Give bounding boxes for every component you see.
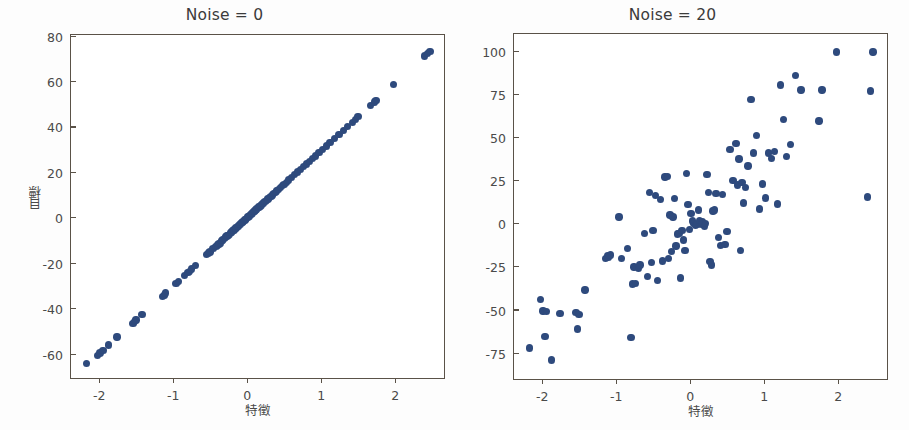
scatter-point: [797, 86, 804, 93]
scatter-point: [740, 199, 747, 206]
scatter-point: [815, 117, 822, 124]
tick-mark: [71, 81, 76, 82]
tick-mark: [514, 180, 519, 181]
scatter-point: [175, 278, 182, 285]
tick-mark: [514, 137, 519, 138]
tick-mark: [514, 266, 519, 267]
scatter-point: [678, 227, 685, 234]
y-tick-label: 20: [47, 165, 71, 180]
scatter-point: [683, 170, 690, 177]
scatter-point: [624, 245, 631, 252]
scatter-point: [677, 274, 684, 281]
y-tick-label: 100: [482, 44, 514, 59]
scatter-point: [818, 86, 825, 93]
scatter-point: [105, 341, 112, 348]
scatter-point: [138, 311, 145, 318]
tick-mark: [514, 51, 519, 52]
scatter-point: [759, 180, 766, 187]
scatter-point: [721, 241, 728, 248]
tick-mark: [514, 223, 519, 224]
scatter-point: [657, 196, 664, 203]
scatter-panel-noise-20: Noise = 20 -75-50-250255075100-2-1012 目標…: [454, 0, 909, 430]
scatter-point: [537, 296, 544, 303]
y-tick-label: 0: [55, 211, 71, 226]
y-tick-label: 75: [490, 87, 514, 102]
scatter-point: [747, 96, 754, 103]
tick-mark: [71, 126, 76, 127]
scatter-point: [702, 220, 709, 227]
scatter-point: [664, 173, 671, 180]
scatter-point: [777, 81, 784, 88]
tick-mark: [71, 217, 76, 218]
scatter-point: [644, 273, 651, 280]
scatter-point: [665, 255, 672, 262]
scatter-point: [636, 261, 643, 268]
scatter-point: [687, 210, 694, 217]
scatter-point: [526, 344, 533, 351]
scatter-point: [792, 72, 799, 79]
scatter-panel-noise-0: Noise = 0 -60-40-20020406080-2-1012 目標 特…: [0, 0, 455, 430]
scatter-point: [711, 206, 718, 213]
scatter-point: [543, 308, 550, 315]
tick-mark: [514, 94, 519, 95]
scatter-point: [780, 116, 787, 123]
scatter-point: [556, 310, 563, 317]
scatter-point: [654, 277, 661, 284]
scatter-point: [426, 48, 433, 55]
scatter-point: [756, 205, 763, 212]
scatter-points-right: [514, 34, 887, 379]
scatter-point: [648, 259, 655, 266]
tick-mark: [514, 353, 519, 354]
scatter-point: [671, 195, 678, 202]
scatter-point: [732, 140, 739, 147]
scatter-point: [695, 206, 702, 213]
scatter-point: [771, 148, 778, 155]
scatter-point: [672, 242, 679, 249]
y-tick-label: 40: [47, 120, 71, 135]
y-axis-label-left: 目標: [26, 186, 45, 210]
scatter-point: [649, 227, 656, 234]
scatter-points-left: [71, 35, 444, 378]
tick-mark: [514, 309, 519, 310]
plot-area-right: -75-50-250255075100-2-1012: [513, 33, 888, 380]
scatter-point: [541, 333, 548, 340]
scatter-point: [719, 191, 726, 198]
scatter-point: [372, 97, 379, 104]
scatter-point: [618, 255, 625, 262]
scatter-point: [774, 200, 781, 207]
scatter-point: [641, 230, 648, 237]
tick-mark: [71, 172, 76, 173]
y-tick-label: -75: [486, 346, 514, 361]
x-axis-label-right: 特徵: [454, 401, 909, 420]
plot-area-left: -60-40-20020406080-2-1012: [70, 34, 445, 379]
x-axis-label-left: 特徵: [0, 400, 455, 419]
tick-mark: [71, 308, 76, 309]
figure-canvas: Noise = 0 -60-40-20020406080-2-1012 目標 特…: [0, 0, 909, 430]
scatter-point: [744, 162, 751, 169]
scatter-point: [83, 360, 90, 367]
scatter-point: [681, 247, 688, 254]
scatter-point: [684, 201, 691, 208]
scatter-point: [735, 155, 742, 162]
scatter-point: [669, 213, 676, 220]
scatter-point: [607, 251, 614, 258]
y-tick-label: 50: [490, 131, 514, 146]
panel-title-left: Noise = 0: [0, 6, 455, 24]
scatter-point: [723, 228, 730, 235]
scatter-point: [742, 184, 749, 191]
scatter-point: [615, 213, 622, 220]
y-tick-label: 25: [490, 174, 514, 189]
scatter-point: [192, 262, 199, 269]
tick-mark: [71, 354, 76, 355]
y-tick-label: -20: [43, 256, 71, 271]
scatter-point: [575, 311, 582, 318]
scatter-point: [390, 81, 397, 88]
scatter-point: [753, 132, 760, 139]
y-tick-label: -25: [486, 260, 514, 275]
scatter-point: [113, 333, 120, 340]
y-tick-label: -40: [43, 302, 71, 317]
scatter-point: [867, 87, 874, 94]
scatter-point: [548, 356, 555, 363]
y-tick-label: 0: [498, 217, 514, 232]
scatter-point: [354, 113, 361, 120]
